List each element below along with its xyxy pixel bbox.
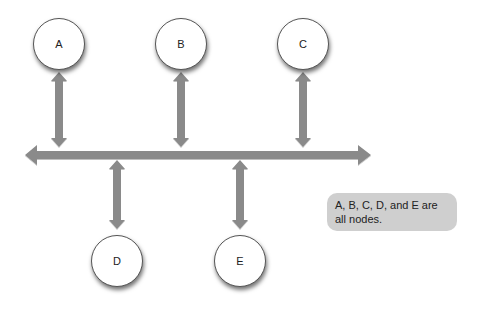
connector-d bbox=[109, 160, 125, 229]
connector-a bbox=[51, 72, 67, 147]
node-c-label: C bbox=[299, 38, 307, 50]
node-b-label: B bbox=[177, 38, 184, 50]
node-e: E bbox=[214, 235, 266, 287]
node-a-label: A bbox=[55, 38, 62, 50]
node-b: B bbox=[155, 18, 207, 70]
connector-b bbox=[173, 72, 189, 147]
node-d-label: D bbox=[113, 255, 121, 267]
node-e-label: E bbox=[236, 255, 243, 267]
node-a: A bbox=[33, 18, 85, 70]
connector-e bbox=[232, 160, 248, 229]
node-c: C bbox=[277, 18, 329, 70]
node-d: D bbox=[91, 235, 143, 287]
note-callout: A, B, C, D, and E are all nodes. bbox=[327, 193, 457, 231]
connector-c bbox=[295, 72, 311, 147]
bus-line bbox=[25, 145, 371, 165]
